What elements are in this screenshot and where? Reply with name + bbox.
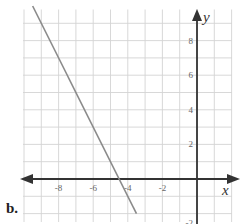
part-label: b. [6, 200, 18, 217]
x-tick-label: -2 [159, 183, 167, 193]
y-axis-up-arrow-icon [192, 9, 202, 21]
x-tick-label: -8 [55, 183, 63, 193]
y-tick-label-partial: -2 [186, 218, 194, 224]
x-axis-right-arrow-icon [227, 174, 240, 184]
x-axis-left-arrow-icon [20, 174, 33, 184]
y-tick-label: 2 [189, 139, 194, 149]
x-axis-label: x [221, 182, 229, 198]
y-tick-label: 4 [189, 105, 194, 115]
y-axis-label: y [201, 9, 210, 25]
x-tick-label: -6 [89, 183, 97, 193]
y-tick-label: 6 [189, 70, 194, 80]
y-tick-label: 8 [189, 36, 194, 46]
coordinate-plane: xy -8-6-4-22468-2 [0, 0, 248, 224]
